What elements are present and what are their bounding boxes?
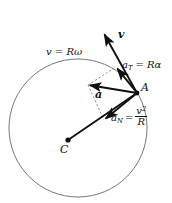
fraction-denominator: R bbox=[135, 117, 147, 127]
center-point-C bbox=[65, 137, 70, 142]
figure-canvas bbox=[0, 0, 172, 203]
tangential-acceleration-label: aT= Rα bbox=[122, 60, 161, 72]
circular-motion-diagram: v = Rω v a A C aT= Rα aN= v2 R bbox=[0, 0, 172, 203]
point-C-label: C bbox=[60, 144, 68, 155]
a-N-subscript: N bbox=[117, 117, 123, 125]
dashed-construction-line-tangential bbox=[88, 67, 116, 85]
velocity-vector-label: v bbox=[118, 29, 124, 40]
v-squared-over-R-fraction: v2 R bbox=[135, 106, 147, 127]
speed-label: v = Rω bbox=[46, 47, 82, 57]
a-T-rhs: = Rα bbox=[136, 59, 162, 70]
a-N-equals: = bbox=[125, 112, 133, 123]
a-T-subscript: T bbox=[128, 64, 133, 72]
point-A-label: A bbox=[141, 82, 149, 93]
resultant-acceleration-label: a bbox=[95, 89, 102, 100]
numerator-exponent: 2 bbox=[142, 105, 146, 113]
normal-acceleration-label: aN= v2 R bbox=[111, 106, 147, 127]
